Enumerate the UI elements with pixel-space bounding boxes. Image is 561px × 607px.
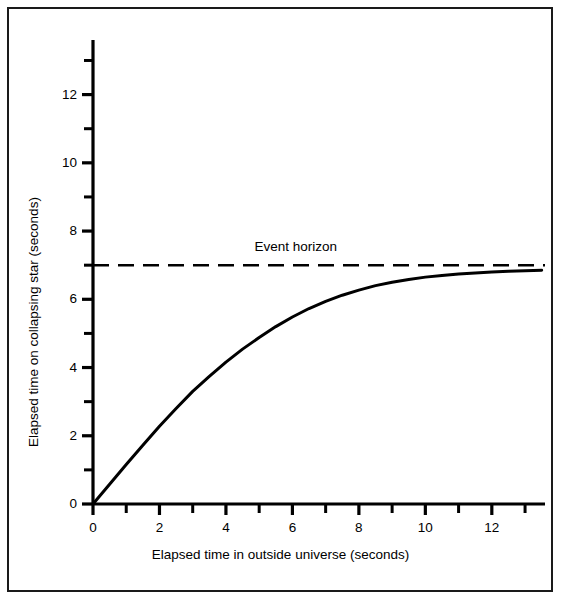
- x-tick-label: 6: [289, 521, 297, 535]
- figure-container: 024681012 024681012 Event horizon Elapse…: [0, 0, 561, 607]
- y-axis-title: Elapsed time on collapsing star (seconds…: [26, 197, 41, 447]
- x-tick-label: 0: [89, 521, 97, 535]
- x-axis-title: Elapsed time in outside universe (second…: [0, 547, 561, 562]
- x-tick-label: 10: [418, 521, 433, 535]
- event-horizon-label: Event horizon: [254, 239, 337, 254]
- y-tick-label: 8: [69, 224, 77, 238]
- x-tick-label: 8: [355, 521, 363, 535]
- y-tick-label: 2: [69, 429, 77, 443]
- y-tick-label: 10: [62, 156, 77, 170]
- x-tick-label: 4: [222, 521, 230, 535]
- y-tick-label: 12: [62, 88, 77, 102]
- x-tick-label: 12: [484, 521, 499, 535]
- x-tick-label: 2: [156, 521, 164, 535]
- y-tick-label: 0: [69, 497, 77, 511]
- y-tick-label: 4: [69, 361, 77, 375]
- y-tick-label: 6: [69, 293, 77, 307]
- figure-frame: [7, 7, 553, 592]
